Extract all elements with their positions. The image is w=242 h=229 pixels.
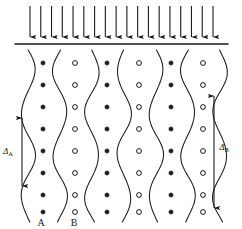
label-a: A xyxy=(37,217,45,228)
marker-filled xyxy=(41,210,45,214)
marker-open xyxy=(201,105,206,110)
marker-filled xyxy=(169,83,173,87)
diagram-canvas: ΔAΔB AB xyxy=(0,0,242,229)
marker-filled xyxy=(41,105,45,109)
marker-filled xyxy=(169,193,173,197)
marker-open xyxy=(201,83,206,88)
marker-open xyxy=(137,193,142,198)
marker-open xyxy=(137,171,142,176)
marker-filled xyxy=(105,210,109,214)
grain-boundary-curve xyxy=(181,50,196,222)
label-b: B xyxy=(71,217,78,228)
grain-boundary-curves xyxy=(21,50,227,222)
marker-open xyxy=(201,61,206,66)
marker-filled xyxy=(169,127,173,131)
marker-open xyxy=(137,105,142,110)
delta-a-arrow-label: ΔA xyxy=(2,146,13,157)
marker-open xyxy=(201,149,206,154)
marker-open xyxy=(73,83,78,88)
marker-filled xyxy=(105,149,109,153)
applied-load-arrows xyxy=(30,6,213,37)
marker-filled xyxy=(105,193,109,197)
marker-open xyxy=(137,83,142,88)
marker-open xyxy=(201,210,206,215)
marker-filled xyxy=(41,61,45,65)
marker-filled xyxy=(169,210,173,214)
marker-filled xyxy=(169,105,173,109)
diagram-svg: ΔAΔB AB xyxy=(0,0,242,229)
marker-open xyxy=(201,171,206,176)
marker-filled xyxy=(169,149,173,153)
marker-open xyxy=(201,127,206,132)
marker-open xyxy=(201,193,206,198)
marker-filled xyxy=(105,105,109,109)
grain-boundary-curve xyxy=(117,50,131,222)
marker-filled xyxy=(105,127,109,131)
marker-open xyxy=(73,171,78,176)
marker-open xyxy=(137,149,142,154)
marker-filled xyxy=(105,171,109,175)
marker-open xyxy=(73,149,78,154)
marker-open xyxy=(73,210,78,215)
grain-markers xyxy=(41,61,206,215)
marker-filled xyxy=(105,61,109,65)
marker-open xyxy=(73,105,78,110)
marker-filled xyxy=(169,61,173,65)
delta-a-arrow-label-subscript: A xyxy=(8,150,13,157)
marker-open xyxy=(73,193,78,198)
grain-boundary-curve xyxy=(21,50,35,222)
marker-open xyxy=(137,61,142,66)
marker-open xyxy=(73,127,78,132)
marker-filled xyxy=(41,171,45,175)
grain-boundary-curve xyxy=(212,50,227,222)
marker-filled xyxy=(41,193,45,197)
marker-filled xyxy=(41,149,45,153)
marker-filled xyxy=(41,83,45,87)
grain-boundary-curve xyxy=(85,50,99,222)
grain-boundary-curve xyxy=(52,50,67,222)
delta-b-arrow-label-subscript: B xyxy=(224,146,229,153)
grain-boundary-curve xyxy=(149,50,163,222)
marker-filled xyxy=(105,83,109,87)
delta-b-arrow-label: ΔB xyxy=(218,142,229,153)
marker-filled xyxy=(169,171,173,175)
marker-open xyxy=(73,61,78,66)
marker-open xyxy=(137,127,142,132)
marker-filled xyxy=(41,127,45,131)
marker-open xyxy=(137,210,142,215)
